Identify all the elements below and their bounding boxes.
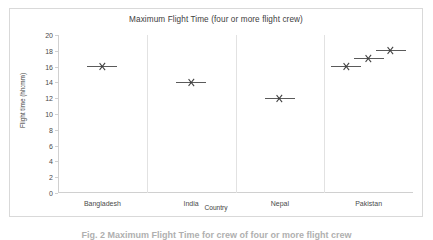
x-marker-icon [187,78,196,87]
y-tick-label: 0 [49,190,53,197]
chart-title: Maximum Flight Time (four or more flight… [10,15,422,24]
y-tick-label: 18 [45,47,53,54]
data-point-marker [87,61,117,72]
y-tick-mark [55,51,58,52]
y-tick-mark [55,67,58,68]
figure-caption: Fig. 2 Maximum Flight Time for crew of f… [0,231,433,240]
y-tick-label: 16 [45,63,53,70]
y-tick-mark [55,146,58,147]
y-tick-mark [55,177,58,178]
category-separator-line [324,35,325,193]
y-tick-label: 2 [49,174,53,181]
x-marker-icon [342,62,351,71]
data-point-marker [376,45,406,56]
x-marker-icon [98,62,107,71]
x-axis-title: Country [10,204,422,211]
y-tick-label: 8 [49,126,53,133]
data-point-marker [176,77,206,88]
x-marker-icon [386,46,395,55]
y-tick-mark [55,193,58,194]
data-point-marker [265,93,295,104]
y-tick-mark [55,114,58,115]
figure-caption-strip: Fig. 2 Maximum Flight Time for crew of f… [0,231,433,240]
y-tick-label: 6 [49,142,53,149]
y-tick-mark [55,130,58,131]
x-marker-icon [364,54,373,63]
x-marker-icon [275,94,284,103]
y-tick-mark [55,82,58,83]
y-tick-mark [55,161,58,162]
y-tick-label: 20 [45,32,53,39]
y-axis-line [58,35,59,193]
chart-frame: Maximum Flight Time (four or more flight… [9,8,423,217]
y-tick-label: 12 [45,95,53,102]
figure-container: Maximum Flight Time (four or more flight… [0,0,433,240]
y-tick-mark [55,98,58,99]
y-axis-title: Flight time (hh:mm) [19,53,26,149]
category-separator-line [236,35,237,193]
y-tick-label: 10 [45,111,53,118]
y-tick-label: 14 [45,79,53,86]
plot-area: 02468101214161820 BangladeshIndiaNepalPa… [58,35,413,193]
y-tick-mark [55,35,58,36]
category-separator-line [147,35,148,193]
y-tick-label: 4 [49,158,53,165]
